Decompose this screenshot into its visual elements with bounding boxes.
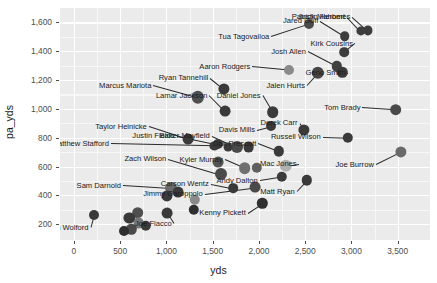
y-gridline-major <box>60 109 430 110</box>
data-point[interactable] <box>220 106 231 117</box>
point-label: Andy Dalton <box>216 176 259 185</box>
point-label: Taylor Heinicke <box>95 122 149 131</box>
data-point[interactable] <box>363 26 372 35</box>
x-tick-mark <box>166 241 167 244</box>
x-tick-label: 500 <box>113 246 127 256</box>
y-tick-label: 400 <box>10 190 52 200</box>
y-gridline-major <box>60 51 430 52</box>
point-label: Sam Darnold <box>77 181 123 190</box>
point-label: Joe Flacco <box>135 219 174 228</box>
point-label: Carson Wentz <box>161 179 211 188</box>
chart-root: Tua TagovailoaJared GoffJustin HerbertPa… <box>0 0 437 283</box>
y-gridline-major <box>60 22 430 23</box>
y-gridline-major <box>60 224 430 225</box>
point-label: Ryan Tannehill <box>159 73 211 82</box>
x-tick-mark <box>259 241 260 244</box>
y-tick-mark <box>56 22 59 23</box>
y-tick-mark <box>56 224 59 225</box>
point-label: Matt Ryan <box>260 187 297 196</box>
y-tick-mark <box>56 51 59 52</box>
point-label: Baker Mayfield <box>159 131 211 140</box>
point-label: Aaron Rodgers <box>199 62 252 71</box>
x-tick-mark <box>74 241 75 244</box>
y-tick-label: 200 <box>10 219 52 229</box>
y-gridline-major <box>60 195 430 196</box>
x-tick-mark <box>120 241 121 244</box>
x-tick-label: 0 <box>72 246 77 256</box>
plot-panel: Tua TagovailoaJared GoffJustin HerbertPa… <box>60 8 430 240</box>
x-tick-label: 3,000 <box>341 246 362 256</box>
point-label: Patrick Mahomes <box>292 12 353 21</box>
y-tick-label: 800 <box>10 133 52 143</box>
x-tick-mark <box>305 241 306 244</box>
x-tick-label: 2,500 <box>295 246 316 256</box>
point-label: Marcus Mariota <box>99 81 153 90</box>
point-label: Joe Burrow <box>335 160 375 169</box>
data-point[interactable] <box>228 183 238 193</box>
data-point[interactable] <box>239 162 251 174</box>
data-point[interactable] <box>89 210 99 220</box>
point-label: Daniel Jones <box>217 91 263 100</box>
point-label: Jalen Hurts <box>267 81 307 90</box>
x-tick-mark <box>398 241 399 244</box>
y-tick-mark <box>56 167 59 168</box>
point-label: Derek Carr <box>260 118 299 127</box>
x-gridline-major <box>74 8 75 240</box>
x-tick-label: 2,000 <box>248 246 269 256</box>
point-label: Kyler Murray <box>180 155 225 164</box>
label-leader-line <box>111 143 215 146</box>
point-label: Russell Wilson <box>271 132 323 141</box>
point-label: Geno Smith <box>306 68 348 77</box>
point-label: Davis Mills <box>219 125 257 134</box>
data-point-unlabeled[interactable] <box>188 205 198 215</box>
point-label: Matthew Stafford <box>60 139 111 148</box>
x-tick-label: 1,000 <box>156 246 177 256</box>
x-tick-mark <box>213 241 214 244</box>
data-point[interactable] <box>395 147 406 158</box>
data-point[interactable] <box>257 198 267 208</box>
y-axis-title: pa_yds <box>3 87 15 157</box>
point-label: Kenny Pickett <box>199 208 247 217</box>
point-label: Kirk Cousins <box>310 39 355 48</box>
data-point-unlabeled[interactable] <box>119 226 129 236</box>
y-tick-mark <box>56 109 59 110</box>
y-tick-mark <box>56 195 59 196</box>
x-tick-label: 1,500 <box>202 246 223 256</box>
point-label: Mac Jones <box>260 159 299 168</box>
x-gridline-major <box>166 8 167 240</box>
data-point[interactable] <box>162 208 173 219</box>
data-point[interactable] <box>284 65 294 75</box>
x-tick-label: 3,500 <box>387 246 408 256</box>
y-tick-label: 1,000 <box>10 104 52 114</box>
data-point[interactable] <box>302 175 312 185</box>
x-gridline-major <box>398 8 399 240</box>
y-tick-label: 1,200 <box>10 75 52 85</box>
point-label: Zach Wilson <box>124 154 168 163</box>
y-gridline-minor <box>60 152 430 153</box>
point-label: Josh Allen <box>271 47 308 56</box>
x-tick-mark <box>351 241 352 244</box>
y-tick-mark <box>56 80 59 81</box>
y-tick-label: 600 <box>10 162 52 172</box>
point-label: Tua Tagovailoa <box>218 32 271 41</box>
point-label: Dak Prescott <box>213 139 258 148</box>
point-label: Jimmy Garoppolo <box>143 189 205 198</box>
x-axis-title: yds <box>0 264 437 276</box>
y-tick-mark <box>56 138 59 139</box>
y-tick-label: 1,400 <box>10 46 52 56</box>
data-point[interactable] <box>390 104 402 116</box>
point-label: Lamar Jackson <box>156 91 210 100</box>
y-tick-label: 1,600 <box>10 17 52 27</box>
point-label: John Wolford <box>60 223 91 232</box>
x-gridline-major <box>213 8 214 240</box>
point-label: Tom Brady <box>324 103 362 112</box>
data-point[interactable] <box>267 107 279 119</box>
data-point[interactable] <box>340 47 350 57</box>
